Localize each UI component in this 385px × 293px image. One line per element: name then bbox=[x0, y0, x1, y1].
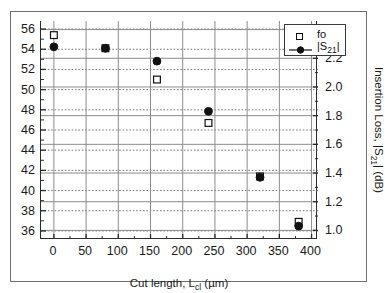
y-axis-right-tick-label: 2.0 bbox=[325, 80, 353, 94]
y-axis-left-tick-label: 46 bbox=[8, 123, 35, 137]
y-axis-left-tick-label: 54 bbox=[8, 42, 35, 56]
y-axis-right-tick-label: 1.8 bbox=[325, 109, 353, 123]
y-axis-right-tick-label: 1.4 bbox=[325, 166, 353, 180]
y-axis-left-tick-label: 40 bbox=[8, 184, 35, 198]
y-axis-left-tick-label: 38 bbox=[8, 204, 35, 218]
x-axis-tick-label: 300 bbox=[236, 244, 257, 258]
axis-title-main: Insertion Loss, |S bbox=[373, 67, 385, 156]
x-axis-tick-label: 150 bbox=[139, 244, 160, 258]
x-axis-tick-label: 50 bbox=[78, 244, 92, 258]
y-axis-left-tick-label: 50 bbox=[8, 83, 35, 97]
y-axis-left-tick-label: 44 bbox=[8, 143, 35, 157]
axis-title-sub: 21 bbox=[369, 156, 379, 165]
axis-title-tail: | (dB) bbox=[373, 165, 385, 193]
legend-item-fo: fo bbox=[288, 27, 342, 41]
legend-item-s21: |S21| bbox=[288, 41, 342, 55]
legend-box: fo |S21| bbox=[284, 24, 346, 56]
x-axis-title: Cut length, Lcl (µm) bbox=[130, 277, 228, 292]
axis-title-tail: (µm) bbox=[201, 277, 228, 289]
x-axis-tick-label: 100 bbox=[107, 244, 128, 258]
y-axis-left-tick-label: 56 bbox=[8, 22, 35, 36]
legend-marker-open-square bbox=[288, 28, 314, 40]
legend-label-s21-sub: 21 bbox=[327, 46, 336, 56]
legend-marker-filled-circle-line bbox=[288, 42, 314, 54]
x-axis-tick-label: 200 bbox=[171, 244, 192, 258]
y-axis-right-tick-label: 1.2 bbox=[325, 195, 353, 209]
y-axis-right-title: Insertion Loss, |S21| (dB) bbox=[369, 67, 384, 193]
legend-label-s21-main: |S bbox=[317, 40, 327, 52]
y-axis-left-tick-label: 52 bbox=[8, 62, 35, 76]
x-axis-tick-label: 350 bbox=[268, 244, 289, 258]
legend-label-fo: fo bbox=[317, 28, 326, 40]
x-axis-tick-label: 250 bbox=[203, 244, 224, 258]
y-axis-right-tick-label: 1.6 bbox=[325, 137, 353, 151]
y-axis-left-tick-label: 48 bbox=[8, 103, 35, 117]
x-axis-tick-label: 0 bbox=[49, 244, 56, 258]
y-axis-left-tick-label: 36 bbox=[8, 224, 35, 238]
data-points bbox=[41, 21, 316, 238]
y-axis-left-tick-label: 42 bbox=[8, 163, 35, 177]
plot-area: Center frequency, fo (GHz) Insertion Los… bbox=[40, 21, 317, 239]
y-axis-right-tick-label: 1.0 bbox=[325, 223, 353, 237]
x-axis-tick-label: 400 bbox=[300, 244, 321, 258]
legend-label-s21-tail: | bbox=[337, 40, 340, 52]
axis-title-main: Cut length, L bbox=[130, 277, 195, 289]
legend-label-s21: |S21| bbox=[317, 40, 340, 55]
